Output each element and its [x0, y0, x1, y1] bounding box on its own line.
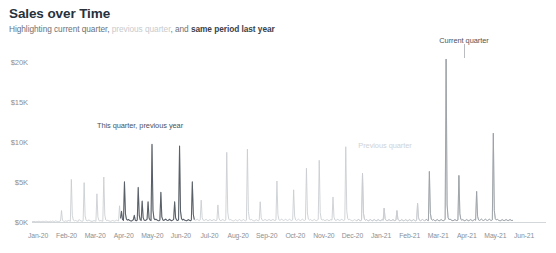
y-axis-tick-0K: $0K — [2, 218, 28, 227]
x-axis-tick-Jan-21: Jan-21 — [371, 232, 391, 239]
y-axis-tick-5K: $5K — [2, 178, 28, 187]
y-axis-tick-20K: $20K — [2, 58, 28, 67]
x-axis-tick-May-21: May-21 — [484, 232, 506, 239]
x-axis-tick-Mar-20: Mar-20 — [85, 232, 106, 239]
x-axis-tick-Oct-20: Oct-20 — [285, 232, 305, 239]
x-axis-tick-Jun-20: Jun-20 — [171, 232, 191, 239]
annotation-previous-quarter: Previous quarter — [358, 141, 411, 150]
x-axis-tick-Jun-21: Jun-21 — [514, 232, 534, 239]
annotation-leader-current-quarter — [464, 44, 465, 58]
x-axis-tick-Aug-20: Aug-20 — [227, 232, 248, 239]
x-axis-tick-Jan-20: Jan-20 — [28, 232, 48, 239]
series-line-same-period-last-year — [121, 144, 195, 221]
x-axis-tick-Feb-20: Feb-20 — [56, 232, 77, 239]
annotation-this-quarter-previous-year: This quarter, previous year — [97, 121, 183, 130]
x-axis-tick-Sep-20: Sep-20 — [256, 232, 277, 239]
x-axis-tick-Mar-21: Mar-21 — [428, 232, 449, 239]
series-line-previous-quarter — [357, 173, 426, 221]
y-axis-tick-10K: $10K — [2, 138, 28, 147]
x-axis-tick-Dec-20: Dec-20 — [342, 232, 363, 239]
series-line-default — [32, 59, 513, 222]
x-axis-tick-Nov-20: Nov-20 — [313, 232, 334, 239]
sales-over-time-chart: Sales over Time Highlighting current qua… — [0, 0, 556, 253]
x-axis-tick-Apr-20: Apr-20 — [114, 232, 134, 239]
x-axis-tick-Apr-21: Apr-21 — [457, 232, 477, 239]
x-axis-tick-May-20: May-20 — [141, 232, 163, 239]
x-axis-tick-Jul-20: Jul-20 — [201, 232, 219, 239]
series-line-current-quarter — [425, 59, 513, 221]
x-axis-tick-Feb-21: Feb-21 — [399, 232, 420, 239]
sales-line-series — [32, 59, 513, 222]
y-axis-tick-15K: $15K — [2, 98, 28, 107]
